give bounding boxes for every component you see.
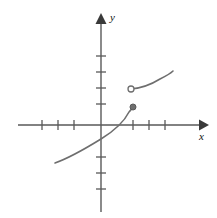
open-endpoint-marker bbox=[128, 86, 134, 92]
graph-figure: y x bbox=[0, 0, 217, 218]
x-axis-label: x bbox=[198, 130, 204, 142]
coordinate-plane: y x bbox=[0, 0, 217, 218]
y-axis-arrow-icon bbox=[96, 13, 107, 24]
curve-right-branch bbox=[131, 71, 173, 89]
y-axis-label: y bbox=[109, 11, 115, 23]
x-axis-arrow-icon bbox=[199, 120, 209, 131]
closed-endpoint-marker bbox=[130, 104, 136, 110]
curve-left-branch bbox=[55, 107, 133, 163]
